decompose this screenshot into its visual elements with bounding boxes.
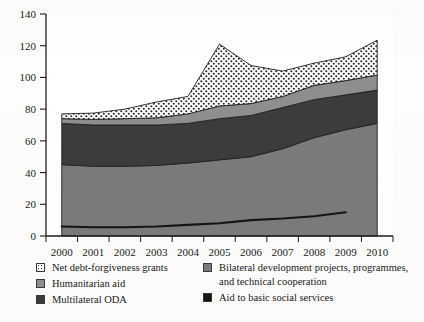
x-tick-label: 2008 xyxy=(303,246,326,258)
y-tick-label: 60 xyxy=(25,135,37,147)
y-tick-label: 20 xyxy=(25,198,37,210)
x-tick-label: 2002 xyxy=(114,246,136,258)
legend-swatch-black-icon xyxy=(203,293,212,302)
legend-item-aid-to-basic-social-services: Aid to basic social services xyxy=(203,291,419,305)
legend-item-humanitarian-aid: Humanitarian aid xyxy=(36,277,206,291)
y-tick-label: 140 xyxy=(20,8,37,20)
x-tick-label: 2000 xyxy=(51,246,74,258)
stacked-area-chart: 020406080100120140 200020012002200320042… xyxy=(0,0,424,322)
legend-column-right: Bilateral development projects, programm… xyxy=(203,261,419,307)
legend-label: Humanitarian aid xyxy=(52,277,125,291)
x-axis-ticks: 2000200120022003200420052006200720082009… xyxy=(46,236,393,258)
legend-column-left: Net debt-forgiveness grants Humanitarian… xyxy=(36,261,206,309)
y-tick-label: 100 xyxy=(20,71,37,83)
x-tick-label: 2010 xyxy=(366,246,389,258)
x-tick-label: 2001 xyxy=(82,246,104,258)
x-tick-label: 2004 xyxy=(177,246,200,258)
chart-plot-area: 020406080100120140 200020012002200320042… xyxy=(0,0,424,262)
legend-swatch-bilateral-gray-icon xyxy=(203,263,212,272)
y-tick-label: 0 xyxy=(31,230,37,242)
legend-item-multilateral-oda: Multilateral ODA xyxy=(36,293,206,307)
legend-swatch-dotted-icon xyxy=(36,263,45,272)
x-tick-label: 2009 xyxy=(335,246,358,258)
y-axis-ticks: 020406080100120140 xyxy=(20,8,47,242)
x-tick-label: 2006 xyxy=(240,246,263,258)
x-tick-label: 2003 xyxy=(145,246,168,258)
legend-item-net-debt-forgiveness-grants: Net debt-forgiveness grants xyxy=(36,261,206,275)
legend-label: Bilateral development projects, programm… xyxy=(219,261,419,289)
y-tick-label: 80 xyxy=(25,103,37,115)
x-tick-label: 2005 xyxy=(209,246,232,258)
y-tick-label: 120 xyxy=(20,40,37,52)
x-tick-label: 2007 xyxy=(272,246,295,258)
y-tick-label: 40 xyxy=(25,167,37,179)
legend-label: Aid to basic social services xyxy=(219,291,333,305)
legend-label: Net debt-forgiveness grants xyxy=(52,261,168,275)
legend-item-bilateral-development-projects: Bilateral development projects, programm… xyxy=(203,261,419,289)
legend-label: Multilateral ODA xyxy=(52,293,127,307)
chart-legend: Net debt-forgiveness grants Humanitarian… xyxy=(0,261,424,322)
legend-swatch-medium-gray-icon xyxy=(36,279,45,288)
legend-swatch-dark-gray-icon xyxy=(36,295,45,304)
